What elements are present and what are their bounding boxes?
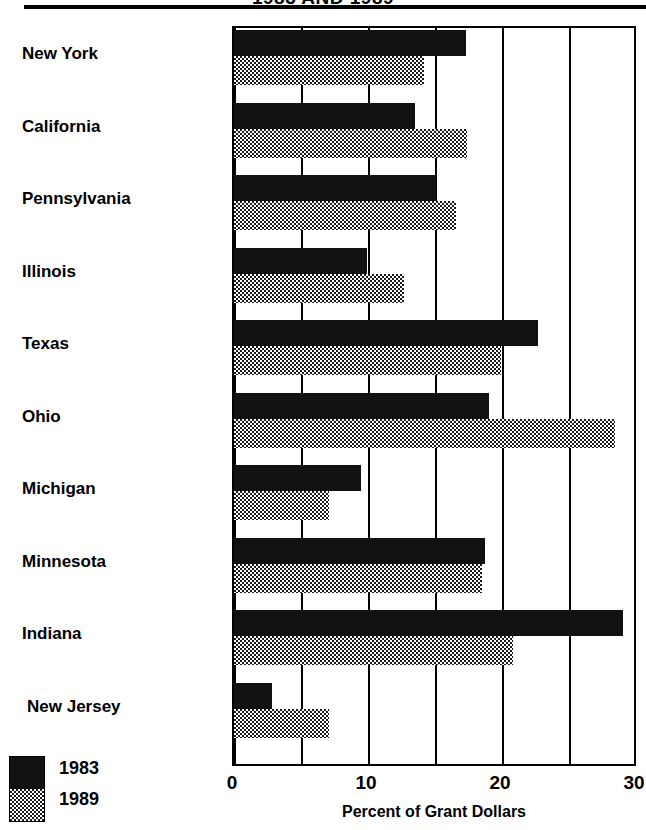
category-label-new-jersey: New Jersey (27, 697, 227, 717)
gridline (634, 28, 636, 764)
bar-1983 (234, 393, 489, 419)
bar-1989 (234, 346, 501, 375)
bar-1989 (234, 274, 404, 303)
bar-1983 (234, 320, 538, 346)
plot-area (232, 26, 636, 766)
legend-swatch-1989 (10, 789, 44, 821)
title-rule (24, 5, 646, 9)
x-axis-label: Percent of Grant Dollars (232, 803, 636, 821)
category-label-new-york: New York (22, 44, 222, 64)
category-label-illinois: Illinois (22, 262, 222, 282)
bars-layer (234, 28, 634, 764)
legend-label-1983: 1983 (59, 758, 99, 779)
bar-1983 (234, 683, 272, 709)
bar-1983 (234, 248, 367, 274)
bar-1989 (234, 564, 482, 593)
bar-1983 (234, 610, 623, 636)
legend-label-1989: 1989 (59, 789, 99, 810)
bar-1989 (234, 56, 424, 85)
category-label-texas: Texas (22, 334, 222, 354)
bar-chart-figure: 1983 AND 1989 New YorkCaliforniaPennsylv… (0, 0, 646, 830)
bar-1983 (234, 465, 361, 491)
x-tick-30: 30 (614, 772, 646, 794)
category-label-ohio: Ohio (22, 407, 222, 427)
x-tick-10: 10 (346, 772, 386, 794)
x-tick-20: 20 (480, 772, 520, 794)
chart-legend: 1983 1989 (9, 756, 169, 826)
x-tick-0: 0 (212, 772, 252, 794)
category-label-michigan: Michigan (22, 479, 222, 499)
bar-1983 (234, 175, 436, 201)
category-label-california: California (22, 117, 222, 137)
bar-1983 (234, 103, 415, 129)
bar-1989 (234, 709, 329, 738)
bar-1989 (234, 636, 513, 665)
bar-1989 (234, 201, 456, 230)
bar-1983 (234, 538, 485, 564)
legend-swatch (9, 756, 45, 822)
legend-swatch-1983 (10, 757, 44, 789)
bar-1989 (234, 491, 329, 520)
category-label-indiana: Indiana (22, 624, 222, 644)
category-label-pennsylvania: Pennsylvania (22, 189, 222, 209)
bar-1989 (234, 419, 615, 448)
bar-1983 (234, 30, 466, 56)
bar-1989 (234, 129, 467, 158)
category-label-minnesota: Minnesota (22, 552, 222, 572)
